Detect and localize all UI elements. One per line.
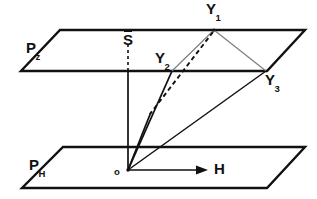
y3-subscript: 3 bbox=[275, 83, 280, 94]
figure-canvas: Pz PH S Y1 Y2 Y3 o H bbox=[0, 0, 317, 199]
origin-point bbox=[126, 168, 129, 171]
plane-lower-label: PH bbox=[29, 157, 46, 176]
s-bar-glyph-wrap: S bbox=[123, 32, 133, 47]
y2-base: Y bbox=[155, 49, 165, 66]
s-bar-label: S bbox=[123, 32, 133, 47]
h-axis-label: H bbox=[214, 161, 225, 176]
y2-subscript: 2 bbox=[165, 61, 170, 72]
plane-lower-subscript: H bbox=[39, 168, 46, 179]
y1-base: Y bbox=[206, 0, 216, 17]
y3-label: Y3 bbox=[265, 72, 280, 91]
s-bar-overline-icon bbox=[124, 30, 132, 32]
lower-plane-outline bbox=[22, 147, 305, 188]
y1-subscript: 1 bbox=[216, 12, 221, 23]
plane-upper-base: P bbox=[26, 39, 36, 56]
origin-label: o bbox=[114, 167, 120, 177]
plane-lower-base: P bbox=[29, 156, 39, 173]
s-bar-text: S bbox=[123, 31, 133, 48]
y1-point bbox=[212, 28, 215, 31]
y3-base: Y bbox=[265, 71, 275, 88]
y1-label: Y1 bbox=[206, 1, 221, 20]
diagram-svg bbox=[0, 0, 317, 199]
plane-upper-label: Pz bbox=[26, 40, 41, 59]
plane-upper-subscript: z bbox=[36, 51, 41, 62]
y2-label: Y2 bbox=[155, 50, 170, 69]
